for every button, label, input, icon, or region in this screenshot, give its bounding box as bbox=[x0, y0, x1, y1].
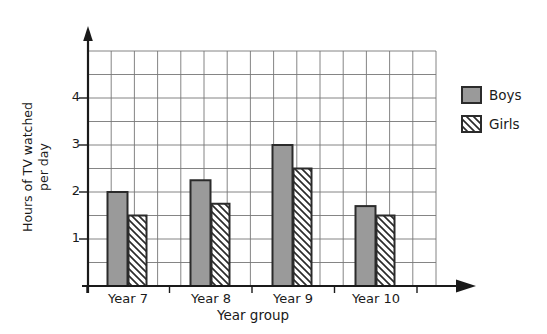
y-tick-label-3: 3 bbox=[54, 136, 80, 151]
x-category-label-year-10: Year 10 bbox=[334, 291, 418, 306]
y-tick-label-1: 1 bbox=[54, 230, 80, 245]
y-tick-label-4: 4 bbox=[54, 89, 80, 104]
bar-boys-year-10 bbox=[356, 206, 376, 286]
bar-boys-year-8 bbox=[191, 180, 211, 286]
bar-girls-year-7 bbox=[129, 216, 147, 287]
bar-boys-year-9 bbox=[273, 145, 293, 286]
y-tick-label-2: 2 bbox=[54, 183, 80, 198]
y-axis-label: Hours of TV watched per day bbox=[20, 87, 53, 247]
y-axis-label-line-1: Hours of TV watched bbox=[20, 87, 36, 247]
bar-boys-year-7 bbox=[108, 192, 128, 286]
legend-girls-label: Girls bbox=[489, 116, 520, 132]
chart-svg bbox=[0, 0, 547, 334]
x-axis-arrow-icon bbox=[456, 280, 476, 293]
x-axis-label: Year group bbox=[173, 307, 333, 323]
bar-girls-year-8 bbox=[212, 204, 230, 286]
x-category-label-year-9: Year 9 bbox=[251, 291, 335, 306]
dual-bar-chart: 1 2 3 4 Year 7 Year 8 Year 9 Year 10 Hou… bbox=[0, 0, 547, 334]
y-axis-label-line-2: per day bbox=[36, 87, 52, 247]
y-axis-arrow-icon bbox=[83, 26, 93, 41]
x-category-label-year-8: Year 8 bbox=[169, 291, 253, 306]
legend-boys-swatch bbox=[462, 87, 481, 103]
bar-girls-year-10 bbox=[377, 216, 395, 287]
bar-girls-year-9 bbox=[294, 169, 312, 287]
x-category-label-year-7: Year 7 bbox=[86, 291, 170, 306]
legend-boys-label: Boys bbox=[489, 87, 522, 103]
legend-swatches bbox=[462, 87, 481, 132]
legend-girls-swatch bbox=[462, 116, 481, 132]
